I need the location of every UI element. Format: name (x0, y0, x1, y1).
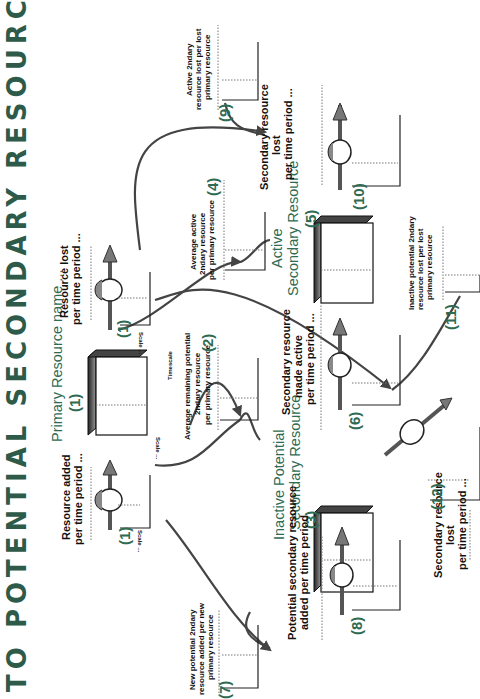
new-potential-line3: primary resource (206, 614, 215, 680)
flow-made-active-line3: per time period ... (304, 313, 316, 405)
stock-primary-timescale: Timescale (167, 350, 173, 380)
flow-lost-line2: per time period ... (70, 233, 82, 325)
flow-lost-line1: Resource lost (58, 245, 70, 318)
flow-added-scale: Scale ... (137, 530, 143, 553)
active-lost-line2: resource lost per lost (194, 28, 203, 110)
flow-added-line2: per time period ... (72, 453, 84, 545)
inactive-lost-per-line3: primary resource (425, 234, 434, 300)
flow-potential-number: (8) (348, 617, 365, 635)
flow-secondary-lost-line1: Secondary resource (258, 84, 270, 190)
avg-active-number: (4) (204, 178, 221, 196)
flow-resource-lost[interactable]: Resource lost per time period ... (1) Sc… (58, 233, 150, 354)
flow-lost-number: (1) (114, 320, 131, 338)
flow-inactive-lost-number: (12) (428, 483, 445, 510)
avg-remaining-line2: 2ndary resource (193, 352, 202, 415)
active-lost-line3: primary resource (203, 34, 212, 100)
flow-made-active-line1: Secondary resource (280, 309, 292, 415)
diagram-canvas: TO POTENTIAL SECONDARY RESOURCE Primary … (0, 0, 480, 699)
converter-active-lost[interactable]: Active 2ndary resource lost per lost pri… (185, 25, 258, 122)
flow-inactive-lost[interactable]: Secondary resource lost per time period … (385, 398, 480, 578)
stock-active-number: (5) (302, 210, 319, 228)
avg-active-line2: 2ndary resource (198, 212, 207, 275)
flow-potential-line1: Potential secondary resource (286, 486, 298, 640)
stock-primary-scale: Scale ... (155, 437, 161, 460)
converter-inactive-lost-per[interactable]: Inactive potential 2ndary resource lost … (407, 216, 480, 330)
inactive-lost-per-line1: Inactive potential 2ndary (407, 216, 416, 310)
flow-secondary-lost-line2: lost (270, 135, 282, 155)
flow-secondary-lost[interactable]: Secondary resource lost per time period … (258, 84, 400, 210)
flow-inactive-lost-line2: lost (444, 525, 456, 545)
converter-avg-remaining[interactable]: Average remaining potential 2ndary resou… (183, 333, 258, 440)
stock-active-line1: Active (269, 229, 285, 269)
flow-added-number: (1) (116, 527, 133, 545)
stock-active-secondary[interactable]: Active Secondary Resource (5) (269, 161, 373, 303)
flow-made-active-number: (6) (346, 412, 363, 430)
avg-remaining-line3: per primary resource (203, 344, 212, 425)
flow-potential-line2: added per time period (298, 515, 310, 630)
avg-active-line3: per primary resource (207, 199, 216, 280)
flow-secondary-lost-number: (10) (350, 183, 367, 210)
flow-resource-added[interactable]: Resource added per time period ... (1) S… (60, 453, 150, 552)
inactive-lost-per-number: (11) (442, 304, 459, 330)
new-potential-line1: New potential 2ndary (188, 609, 197, 690)
flow-made-active-line2: made active (292, 335, 304, 398)
new-potential-number: (7) (216, 681, 233, 699)
flow-lost-scale: Scale ... (138, 332, 144, 355)
avg-active-line1: Average active (189, 213, 198, 270)
diagram-title: TO POTENTIAL SECONDARY RESOURCE (2, 0, 32, 692)
flow-added-line1: Resource added (60, 454, 72, 540)
new-potential-line2: resource added per new (197, 602, 206, 695)
avg-remaining-number: (2) (199, 334, 216, 352)
stock-primary-number: (1) (66, 394, 83, 412)
avg-remaining-line1: Average remaining potential (183, 333, 192, 440)
inactive-lost-per-line2: resource lost per lost (416, 228, 425, 310)
active-lost-number: (9) (216, 104, 233, 122)
flow-inactive-lost-line3: per time period ... (456, 478, 468, 570)
stock-inactive-line1: Inactive Potential (271, 430, 287, 540)
flow-secondary-lost-line3: per time period ... (282, 88, 294, 180)
active-lost-line1: Active 2ndary (185, 43, 194, 96)
